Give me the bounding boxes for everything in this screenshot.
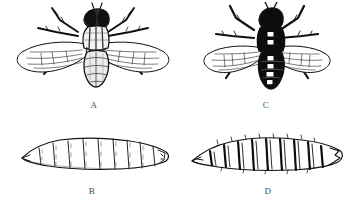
- figure-b-larva: [8, 128, 178, 186]
- abdomen-group: [258, 52, 284, 90]
- illustration-plate: A: [0, 0, 360, 205]
- thorax-group: [83, 26, 109, 53]
- larva-pale-drawing: [8, 128, 178, 186]
- figure-label-a: A: [84, 100, 104, 110]
- figure-label-b: B: [82, 186, 102, 196]
- adult-fly-pale-drawing: [8, 2, 178, 97]
- wing-right: [100, 42, 169, 72]
- figure-c-adult-fly: [182, 2, 352, 97]
- wing-left: [17, 42, 86, 72]
- wing-left: [204, 46, 262, 73]
- figure-label-c: C: [256, 100, 276, 110]
- larva-dark-drawing: [182, 128, 352, 186]
- figure-label-d: D: [258, 186, 278, 196]
- figure-d-larva: [182, 128, 352, 186]
- adult-fly-dark-drawing: [182, 2, 352, 97]
- abdomen-group: [84, 51, 109, 88]
- figure-a-adult-fly: [8, 2, 178, 97]
- larva-b-outline: [22, 138, 168, 169]
